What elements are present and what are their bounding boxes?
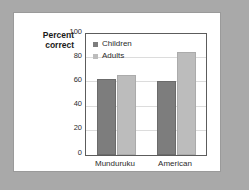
y-axis-tick-label: 60	[58, 76, 82, 84]
y-axis-tick-label: 40	[58, 100, 82, 108]
x-axis-tick-label: American	[158, 159, 192, 168]
y-axis-tick-label: 20	[58, 125, 82, 133]
legend-entry-children: Children	[93, 39, 132, 49]
legend-label: Adults	[102, 52, 124, 60]
y-axis-tick-label: 0	[58, 149, 82, 157]
legend-label: Children	[102, 40, 132, 48]
bar-munduruku-adults	[117, 75, 136, 155]
y-axis-tick-label: 80	[58, 52, 82, 60]
figure-panel: Percent correct 100806040200 MundurukuAm…	[13, 12, 221, 172]
y-axis-tick-labels: 100806040200	[58, 33, 82, 156]
chart-legend: ChildrenAdults	[93, 39, 132, 63]
x-axis-tick-labels: MundurukuAmerican	[85, 159, 207, 173]
legend-swatch-icon	[93, 54, 98, 59]
bar-american-adults	[177, 52, 196, 155]
legend-swatch-icon	[93, 42, 98, 47]
bar-american-children	[157, 81, 176, 155]
legend-entry-adults: Adults	[93, 51, 132, 61]
y-axis-tick-label: 100	[58, 28, 82, 36]
x-axis-tick-label: Munduruku	[95, 159, 135, 168]
bar-munduruku-children	[97, 79, 116, 155]
